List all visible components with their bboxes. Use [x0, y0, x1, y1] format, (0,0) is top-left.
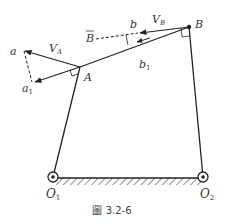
label-VB: VB — [152, 13, 165, 27]
pivot-O2 — [198, 172, 208, 182]
svg-text:B: B — [85, 32, 94, 45]
label-VA: VA — [49, 42, 62, 56]
label-O1: O1 — [46, 187, 60, 202]
ground-hatch — [53, 178, 203, 185]
dashed-a-a1 — [24, 51, 32, 82]
linkage-diagram: a a1 VA A B B b b1 VB O1 O2 圖 3.2-6 — [0, 0, 225, 224]
figure-caption: 圖 3.2-6 — [92, 205, 131, 216]
pivot-O1 — [48, 172, 58, 182]
link-A-B — [80, 27, 189, 67]
dashed-Bbar-b — [96, 33, 138, 39]
label-A: A — [83, 71, 92, 84]
joint-B — [187, 25, 191, 29]
label-b: b — [130, 18, 137, 31]
label-a1: a1 — [22, 82, 33, 96]
right-angle-A — [70, 70, 78, 76]
link-B-O2 — [189, 27, 203, 177]
link-O1-A — [53, 67, 80, 177]
label-B: B — [194, 18, 203, 31]
velocity-Aa1-arrow — [35, 67, 80, 82]
label-O2: O2 — [200, 187, 214, 202]
label-b1: b1 — [139, 58, 151, 72]
label-a: a — [10, 45, 17, 58]
label-Bbar: B — [85, 31, 94, 45]
perp-b-b1 — [126, 35, 128, 45]
